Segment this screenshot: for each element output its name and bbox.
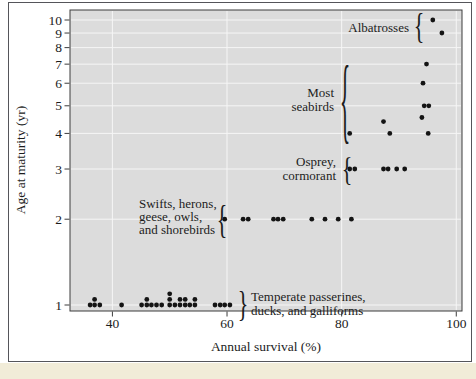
brace-albatrosses: { xyxy=(414,5,425,46)
data-point xyxy=(88,303,93,308)
data-point xyxy=(387,131,392,136)
data-point xyxy=(228,303,233,308)
y-tick-label: 2 xyxy=(55,212,62,227)
data-point xyxy=(144,297,149,302)
y-tick-label: 7 xyxy=(55,57,62,72)
data-point xyxy=(381,119,386,124)
brace-swifts-herons-geese-owls-shorebirds: { xyxy=(217,197,228,242)
annotation-text-temperate-passerines-ducks-galliforms: ducks, and galliforms xyxy=(251,303,363,318)
annotation-text-most-seabirds: Most xyxy=(307,85,334,100)
data-point xyxy=(167,303,172,308)
data-point xyxy=(420,115,425,120)
data-point xyxy=(281,217,286,222)
data-point xyxy=(381,167,386,172)
x-tick-label: 60 xyxy=(220,316,234,331)
data-point xyxy=(178,297,183,302)
data-point xyxy=(222,303,227,308)
y-tick-label: 5 xyxy=(55,98,62,113)
y-tick-label: 4 xyxy=(55,126,62,141)
data-point xyxy=(426,131,431,136)
data-point xyxy=(276,217,281,222)
annotation-text-albatrosses: Albatrosses xyxy=(348,20,409,35)
y-tick-label: 1 xyxy=(55,298,62,313)
data-point xyxy=(241,217,246,222)
data-point xyxy=(183,303,188,308)
data-point xyxy=(167,291,172,296)
data-point xyxy=(352,167,357,172)
data-point xyxy=(193,297,198,302)
data-point xyxy=(426,103,431,108)
y-tick-label: 3 xyxy=(55,162,62,177)
data-point xyxy=(213,303,218,308)
data-point xyxy=(422,103,427,108)
data-point xyxy=(183,297,188,302)
y-tick-label: 10 xyxy=(49,13,63,28)
x-tick-label: 80 xyxy=(335,316,349,331)
data-point xyxy=(173,303,178,308)
data-point xyxy=(421,81,426,86)
data-point xyxy=(144,303,149,308)
x-axis-title: Annual survival (%) xyxy=(211,339,321,354)
plot-area xyxy=(70,10,462,311)
data-point xyxy=(349,217,354,222)
data-point xyxy=(167,297,172,302)
y-axis-title: Age at maturity (yr) xyxy=(13,106,28,214)
data-point xyxy=(218,303,223,308)
data-point xyxy=(178,303,183,308)
data-point xyxy=(309,217,314,222)
annotation-text-most-seabirds: seabirds xyxy=(291,99,334,114)
data-point xyxy=(119,303,124,308)
data-point xyxy=(193,303,198,308)
data-point xyxy=(271,217,276,222)
data-point xyxy=(246,217,251,222)
annotation-text-osprey-cormorant: Osprey, xyxy=(296,154,336,169)
data-point xyxy=(394,167,399,172)
data-point xyxy=(92,297,97,302)
data-point xyxy=(97,303,102,308)
scatter-plot-canvas: 40608010012345678910Annual survival (%)A… xyxy=(0,0,476,379)
data-point xyxy=(159,303,164,308)
data-point xyxy=(149,303,154,308)
annotation-text-swifts-herons-geese-owls-shorebirds: and shorebirds xyxy=(139,222,215,237)
data-point xyxy=(402,167,407,172)
scatter-figure: 40608010012345678910Annual survival (%)A… xyxy=(0,0,476,379)
annotation-text-temperate-passerines-ducks-galliforms: Temperate passerines, xyxy=(251,289,366,304)
data-point xyxy=(424,62,429,67)
brace-temperate-passerines-ducks-galliforms: } xyxy=(238,283,249,324)
y-tick-label: 9 xyxy=(55,26,62,41)
data-point xyxy=(440,31,445,36)
data-point xyxy=(323,217,328,222)
brace-most-seabirds: { xyxy=(340,47,351,152)
data-point xyxy=(336,217,341,222)
data-point xyxy=(187,303,192,308)
y-tick-label: 6 xyxy=(55,76,62,91)
y-tick-label: 8 xyxy=(55,40,62,55)
brace-osprey-cormorant: { xyxy=(342,149,353,187)
x-tick-label: 40 xyxy=(106,316,120,331)
data-point xyxy=(154,303,159,308)
data-point xyxy=(386,167,391,172)
x-tick-label: 100 xyxy=(446,316,467,331)
data-point xyxy=(92,303,97,308)
annotation-text-osprey-cormorant: cormorant xyxy=(283,168,337,183)
data-point xyxy=(430,18,435,23)
data-point xyxy=(139,303,144,308)
caption-strip xyxy=(0,363,476,379)
